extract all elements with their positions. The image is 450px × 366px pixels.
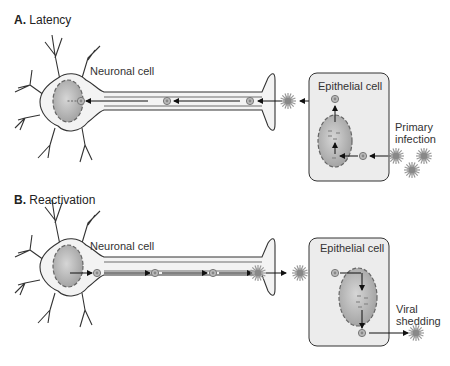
panel-b [15, 200, 424, 346]
diagram-canvas [0, 0, 450, 366]
neuronal-cell-label-b: Neuronal cell [90, 240, 154, 252]
viral-shedding-line2: shedding [396, 315, 441, 327]
viral-shedding-line1: Viral [396, 303, 441, 315]
panel-b-letter: B. [14, 193, 26, 207]
herpes-latency-diagram: A. Latency Neuronal cell Epithelial cell… [0, 0, 450, 366]
panel-a-letter: A. [14, 13, 26, 27]
epithelial-cell-label-b: Epithelial cell [320, 242, 384, 254]
primary-infection-label: Primary infection [395, 121, 436, 145]
panel-a-title-text: Latency [29, 13, 71, 27]
primary-infection-line1: Primary [395, 121, 436, 133]
viral-shedding-label: Viral shedding [396, 303, 441, 327]
primary-infection-line2: infection [395, 133, 436, 145]
panel-a-title: A. Latency [14, 13, 71, 27]
panel-b-title: B. Reactivation [14, 193, 95, 207]
neuronal-cell-a [15, 35, 275, 162]
neuronal-cell-label-a: Neuronal cell [90, 65, 154, 77]
panel-a [15, 35, 432, 181]
epithelial-cell-label-a: Epithelial cell [318, 80, 382, 92]
neuronal-cell-b [15, 200, 275, 327]
panel-b-title-text: Reactivation [29, 193, 95, 207]
